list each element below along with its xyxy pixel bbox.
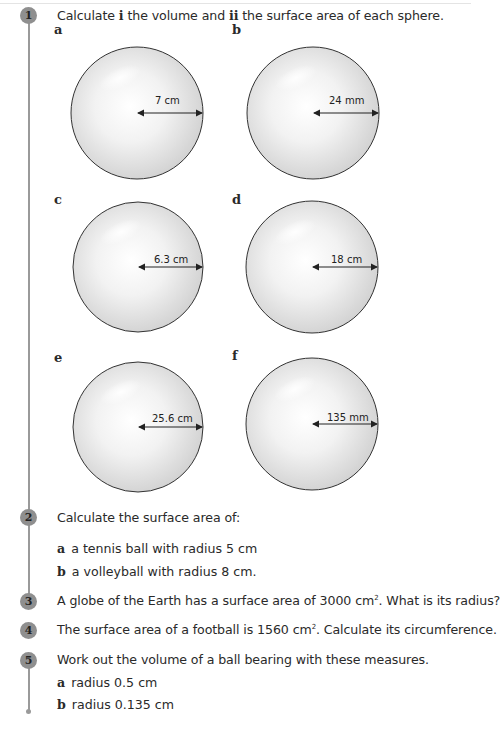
radius-label-b: 24 mm [329,95,364,106]
connector-end-dot [26,709,31,714]
question-number-badge-4: 4 [20,622,37,639]
q4-text: The surface area of a football is 1560 c… [57,622,312,637]
question-5-part-a: aradius 0.5 cm [57,675,157,690]
part-text: a volleyball with radius 8 cm. [72,564,257,579]
sphere-label-c: c [54,192,62,207]
question-number-badge-1: 1 [20,7,37,24]
radius-label-e: 25.6 cm [152,413,193,424]
question-number-badge-5: 5 [20,652,37,669]
radius-label-f: 135 mm [327,412,369,423]
sphere-e [71,360,205,494]
q3-text: . What is its radius? [379,593,500,608]
top-divider [0,3,471,4]
q1-text-part: the surface area of each sphere. [238,8,443,23]
sphere-a [70,46,204,180]
question-2-connector-line [28,524,30,594]
q4-text: . Calculate its circumference. [316,622,497,637]
sphere-label-e: e [54,350,62,365]
part-text: a tennis ball with radius 5 cm [71,541,257,556]
question-number-badge-3: 3 [20,593,37,610]
part-label: b [57,697,66,712]
radius-label-d: 18 cm [331,254,362,265]
q1-roman-ii: ii [229,8,238,23]
sphere-label-d: d [232,192,241,207]
part-label: a [57,541,65,556]
sphere-label-f: f [232,348,238,363]
question-5-connector-line [28,662,30,712]
radius-label-c: 6.3 cm [154,254,188,265]
question-1-text: Calculate i the volume and ii the surfac… [57,8,444,23]
sphere-d [245,200,379,334]
sphere-label-b: b [232,22,241,37]
question-1-connector-line [28,22,30,510]
part-label: a [57,675,65,690]
question-5-text: Work out the volume of a ball bearing wi… [57,652,429,667]
sphere-c [71,200,205,334]
question-5-part-b: bradius 0.135 cm [57,697,174,712]
question-2-text: Calculate the surface area of: [57,510,240,525]
sphere-f [245,357,379,491]
q1-text-part: the volume and [124,8,229,23]
question-2-part-b: ba volleyball with radius 8 cm. [57,564,256,579]
part-text: radius 0.5 cm [71,675,157,690]
part-text: radius 0.135 cm [72,697,174,712]
radius-label-a: 7 cm [155,95,180,106]
sphere-b [246,46,380,180]
q3-text: A globe of the Earth has a surface area … [57,593,374,608]
part-label: b [57,564,66,579]
question-number-badge-2: 2 [20,509,37,526]
question-4-text: The surface area of a football is 1560 c… [57,622,497,637]
question-2-part-a: aa tennis ball with radius 5 cm [57,541,257,556]
question-3-text: A globe of the Earth has a surface area … [57,593,500,608]
q1-text-part: Calculate [57,8,119,23]
sphere-label-a: a [54,22,62,37]
